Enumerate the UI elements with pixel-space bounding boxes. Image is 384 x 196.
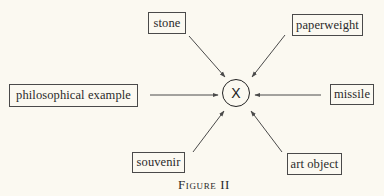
node-label: paperweight [296,19,359,32]
figure-diagram: stone paperweight philosophical example … [0,0,384,196]
arrow-paperweight-to-x [252,35,285,77]
node-art-object: art object [287,153,342,175]
node-label: souvenir [137,156,181,169]
figure-caption: Figure II [178,177,238,193]
node-missile: missile [330,84,374,105]
node-label: art object [291,158,339,171]
node-souvenir: souvenir [132,152,185,173]
center-node-x: X [222,79,250,107]
node-label: stone [154,17,181,30]
arrow-souvenir-to-x [193,111,224,152]
center-node-label: X [231,85,240,101]
arrow-stone-to-x [189,36,225,77]
node-stone: stone [148,12,186,34]
arrow-art-object-to-x [251,111,282,152]
node-label: philosophical example [16,89,131,102]
node-philosophical-example: philosophical example [9,84,138,107]
node-paperweight: paperweight [292,14,363,36]
node-label: missile [334,88,370,101]
